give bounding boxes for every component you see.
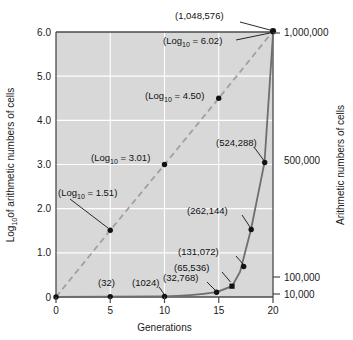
ytick-label-4: 4.0	[37, 115, 51, 126]
y2tick-label-1m: 1,000,000	[284, 27, 329, 38]
y2tick-label-500k: 500,000	[284, 155, 321, 166]
y-axis-title-main: of arithmetic numbers of cells	[5, 88, 16, 218]
y-axis-title: Log10of arithmetic numbers of cells	[5, 88, 18, 243]
xtick-label-5: 5	[107, 305, 113, 316]
annotation-log-602-tail: = 6.02)	[190, 35, 222, 46]
annotation-log-151: (Log10 = 1.51)	[58, 187, 117, 200]
ytick-label-6: 6.0	[37, 27, 51, 38]
bottom-axis-ticks	[56, 297, 273, 303]
annotation-log-602: (Log10 = 6.02)	[163, 35, 222, 48]
y-axis-title-sub: 10	[11, 218, 18, 226]
annotation-log-450-prefix: (Log	[145, 90, 164, 101]
annotation-262144: (262,144)	[187, 205, 228, 216]
right-axis-ticks	[273, 33, 280, 294]
xtick-label-20: 20	[267, 305, 279, 316]
ytick-label-5: 5.0	[37, 71, 51, 82]
ytick-label-0: 0	[45, 292, 51, 303]
annotation-log-602-sub: 10	[182, 41, 190, 48]
ytick-label-2: 2.0	[37, 203, 51, 214]
annotation-32768: (32,768)	[163, 272, 198, 283]
xtick-label-10: 10	[159, 305, 171, 316]
ytick-label-3: 3.0	[37, 159, 51, 170]
figure-container: 6.0 5.0 4.0 3.0 2.0 1.0 0 0 5 10 15 20 1…	[0, 0, 353, 340]
annotation-1024: (1024)	[132, 277, 159, 288]
annotation-131072: (131,072)	[178, 246, 219, 257]
xtick-label-0: 0	[53, 305, 59, 316]
annotation-log-301-prefix: (Log	[91, 152, 110, 163]
annotation-524288: (524,288)	[216, 137, 257, 148]
y2-axis-title: Arithmetic numbers of cells	[335, 105, 346, 225]
ytick-label-1: 1.0	[37, 247, 51, 258]
growth-curve-chart: 6.0 5.0 4.0 3.0 2.0 1.0 0 0 5 10 15 20 1…	[0, 0, 353, 340]
annotation-log-450: (Log10 = 4.50)	[145, 90, 204, 103]
y2tick-label-10k: 10,000	[284, 289, 315, 300]
annotation-log-151-tail: = 1.51)	[85, 187, 117, 198]
x-axis-title: Generations	[137, 322, 191, 333]
annotation-log-151-prefix: (Log	[58, 187, 77, 198]
y2tick-label-100k: 100,000	[284, 272, 321, 283]
annotation-log-301: (Log10 = 3.01)	[91, 152, 150, 165]
y-axis-title-prefix: Log	[5, 226, 16, 243]
annotation-log-602-prefix: (Log	[163, 35, 182, 46]
annotation-log-301-tail: = 3.01)	[118, 152, 150, 163]
svg-text:Log10of arithmetic numbers of: Log10of arithmetic numbers of cells	[5, 88, 18, 243]
annotation-log-301-sub: 10	[110, 158, 118, 165]
annotation-log-450-sub: 10	[164, 96, 172, 103]
annotation-log-151-sub: 10	[77, 193, 85, 200]
annotation-32: (32)	[98, 277, 115, 288]
y2-axis-title-text: Arithmetic numbers of cells	[335, 105, 346, 225]
xtick-label-15: 15	[213, 305, 225, 316]
annotation-log-450-tail: = 4.50)	[172, 90, 204, 101]
annotation-1048576: (1,048,576)	[175, 10, 224, 21]
